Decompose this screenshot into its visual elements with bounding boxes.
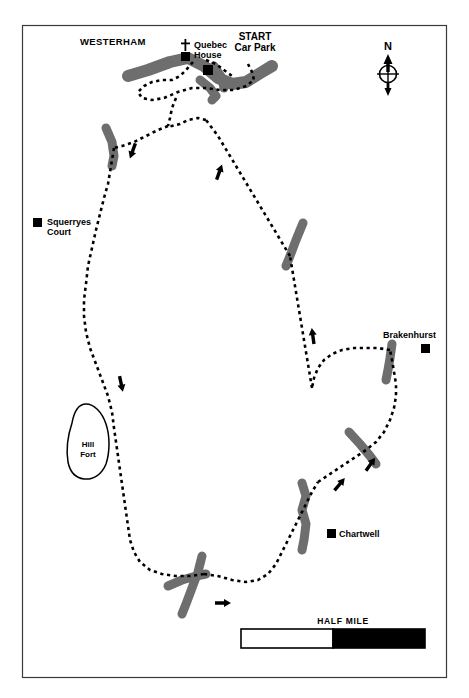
westerham-label-group: WESTERHAM	[80, 36, 146, 47]
quebec-house-marker-icon	[181, 52, 190, 61]
road-segment-chartwell	[302, 483, 306, 550]
scale-bar-segment-black	[333, 629, 425, 648]
car-park-marker-icon	[203, 65, 213, 75]
chartwell-group: Chartwell	[327, 529, 380, 539]
brakenhurst-marker-icon	[421, 344, 430, 353]
squerryes-court-label-line2: Court	[47, 227, 71, 237]
quebec-house-label-line2: House	[194, 50, 222, 60]
squerryes-court-label-line1: Squerryes	[47, 217, 91, 227]
squerryes-court-marker-icon	[33, 218, 42, 227]
compass-north-label: N	[384, 40, 392, 52]
scale-bar-label: HALF MILE	[317, 616, 369, 626]
car-park-label: Car Park	[234, 42, 276, 53]
walk-route-map: Hill Fort WESTERHAM Quebec House START C…	[0, 0, 469, 698]
chartwell-marker-icon	[327, 529, 336, 538]
hill-fort-label-line2: Fort	[80, 450, 96, 459]
map-page: WALKS AROUND THE LONDON LOOP	[0, 0, 469, 698]
scale-bar-segment-white	[241, 629, 333, 648]
brakenhurst-label: Brakenhurst	[383, 330, 436, 340]
map-background	[0, 0, 469, 698]
quebec-house-label-line1: Quebec	[194, 40, 227, 50]
chartwell-label: Chartwell	[339, 529, 380, 539]
hill-fort-label-line1: Hill	[82, 440, 94, 449]
westerham-label: WESTERHAM	[80, 36, 146, 47]
start-label: START	[239, 31, 272, 42]
